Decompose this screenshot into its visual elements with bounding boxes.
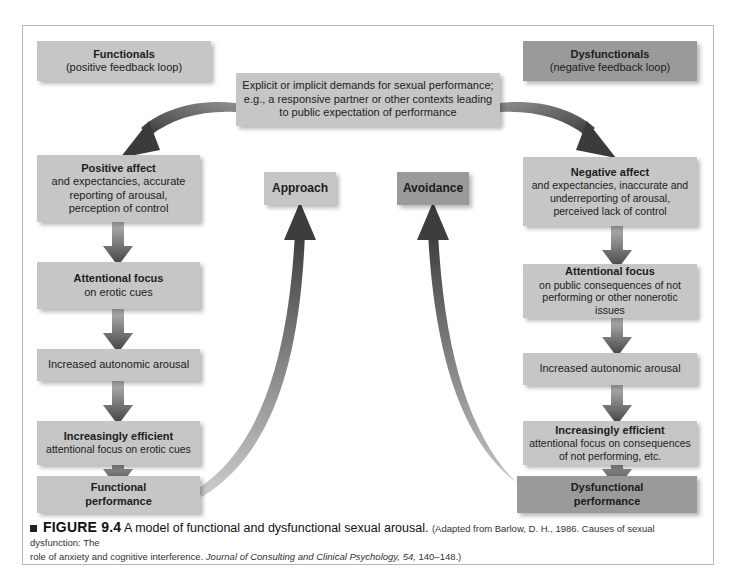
right-chain-box-1-title: Negative affect [571, 166, 649, 179]
avoidance-box: Avoidance [397, 172, 469, 205]
approach-label: Approach [272, 181, 328, 196]
right-chain-box-4: Increasingly efficient attentional focus… [523, 421, 697, 465]
caption-main-line: FIGURE 9.4 A model of functional and dys… [30, 519, 706, 549]
right-chain-box-2: Attentional focus on public consequences… [523, 264, 697, 318]
header-functionals-title: Functionals [93, 48, 155, 61]
trigger-box: Explicit or implicit demands for sexual … [236, 73, 500, 126]
left-chain-box-1: Positive affect and expectancies, accura… [37, 155, 200, 222]
caption-source-line-2: role of anxiety and cognitive interferen… [30, 551, 706, 562]
left-chain-box-5: Functional performance [37, 476, 200, 513]
header-dysfunctionals-title: Dysfunctionals [571, 48, 650, 61]
left-chain-box-4-title: Increasingly efficient [64, 430, 173, 443]
left-chain-box-3-line-1: Increased autonomic arousal [48, 358, 189, 371]
left-chain-box-2: Attentional focus on erotic cues [37, 262, 200, 309]
left-chain-box-5-title: Functional performance [74, 481, 164, 509]
caption-source-2-pre: role of anxiety and cognitive interferen… [30, 551, 206, 562]
right-chain-box-2-title: Attentional focus [565, 265, 655, 278]
right-chain-box-1-line-1: and expectancies, inaccurate and [532, 179, 688, 192]
header-dysfunctionals-subtitle: (negative feedback loop) [550, 61, 670, 74]
avoidance-label: Avoidance [403, 181, 463, 196]
trigger-line-3: to public expectation of performance [279, 106, 456, 119]
right-chain-box-1: Negative affect and expectancies, inaccu… [523, 157, 697, 226]
left-chain-box-1-line-1: and expectancies, accurate [52, 175, 186, 188]
left-chain-box-1-title: Positive affect [81, 162, 156, 175]
right-chain-box-3-line-1: Increased autonomic arousal [539, 362, 680, 375]
right-chain-box-2-line-3: issues [595, 304, 625, 317]
left-chain-box-4-line-1: attentional focus on erotic cues [46, 443, 191, 456]
approach-box: Approach [264, 172, 336, 205]
caption-figure-label: FIGURE 9.4 [43, 519, 121, 535]
right-chain-box-5-title: Dysfunctional performance [552, 481, 662, 509]
trigger-line-1: Explicit or implicit demands for sexual … [242, 79, 493, 92]
left-chain-box-3: Increased autonomic arousal [37, 349, 200, 381]
trigger-line-2: e.g., a responsive partner or other cont… [244, 93, 492, 106]
left-chain-box-1-line-2: reporting of arousal, [70, 189, 168, 202]
right-chain-box-4-title: Increasingly efficient [555, 424, 664, 437]
right-chain-box-2-line-2: performing or other nonerotic [542, 291, 677, 304]
figure-container: Functionals (positive feedback loop) Dys… [0, 0, 736, 588]
header-box-dysfunctionals: Dysfunctionals (negative feedback loop) [523, 41, 697, 81]
right-chain-box-1-line-2: underreporting of arousal, [550, 192, 670, 205]
right-chain-box-2-line-1: on public consequences of not [539, 279, 681, 292]
left-chain-box-2-line-1: on erotic cues [84, 286, 152, 299]
left-chain-box-2-title: Attentional focus [74, 272, 164, 285]
caption-source-2-post: 140–148.) [416, 551, 461, 562]
figure-caption: FIGURE 9.4 A model of functional and dys… [30, 519, 706, 562]
left-chain-box-4: Increasingly efficient attentional focus… [37, 421, 200, 465]
square-marker-icon [30, 525, 37, 532]
caption-title: A model of functional and dysfunctional … [124, 521, 428, 535]
right-chain-box-4-line-2: of not performing, etc. [559, 450, 661, 463]
header-functionals-subtitle: (positive feedback loop) [66, 61, 182, 74]
caption-source-2-journal: Journal of Consulting and Clinical Psych… [206, 551, 416, 562]
header-box-functionals: Functionals (positive feedback loop) [37, 41, 211, 81]
right-chain-box-1-line-3: perceived lack of control [553, 205, 666, 218]
right-chain-box-3: Increased autonomic arousal [523, 353, 697, 385]
right-chain-box-5: Dysfunctional performance [517, 476, 697, 513]
right-chain-box-4-line-1: attentional focus on consequences [529, 437, 691, 450]
left-chain-box-1-line-3: perception of control [69, 202, 169, 215]
